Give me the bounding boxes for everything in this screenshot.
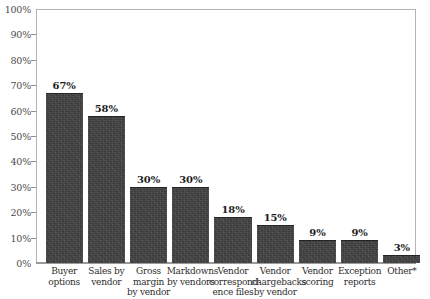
x-axis-tick-label: Vendorscoring	[293, 266, 341, 287]
bar-slot: 58%	[88, 9, 125, 263]
bar[interactable]	[46, 93, 83, 263]
x-axis-tick-label: Vendorchargebacksby vendor	[251, 266, 299, 298]
bar[interactable]	[383, 255, 420, 263]
x-axis-tick-label-line: by vendor	[251, 287, 299, 298]
bar-value-label: 9%	[352, 227, 368, 238]
y-tick-label: 50%	[10, 131, 31, 142]
y-tick-label: 100%	[5, 4, 31, 15]
bar-value-label: 58%	[95, 103, 118, 114]
bar-slot: 15%	[257, 9, 294, 263]
y-tick-label: 90%	[10, 29, 31, 40]
bar[interactable]	[88, 116, 125, 263]
bar-slot: 9%	[341, 9, 378, 263]
y-tick-label: 20%	[10, 207, 31, 218]
bar-slot: 9%	[299, 9, 336, 263]
bars-layer: 67%58%30%30%18%15%9%9%3%	[36, 9, 416, 263]
x-axis-tick-label-line: chargebacks	[251, 277, 299, 288]
y-tick-label: 30%	[10, 181, 31, 192]
bar[interactable]	[214, 217, 251, 263]
bar-slot: 30%	[172, 9, 209, 263]
x-axis-tick-label-line: correspond-	[209, 277, 257, 288]
x-axis-tick-label-line: Exception	[336, 266, 384, 277]
x-axis-tick-label: Markdownsby vendors	[167, 266, 215, 287]
bar-chart: 0%10%20%30%40%50%60%70%80%90%100% 67%58%…	[0, 0, 430, 299]
x-axis-tick-label: Buyeroptions	[40, 266, 88, 287]
x-axis-tick-label-line: ence files	[209, 287, 257, 298]
y-axis: 0%10%20%30%40%50%60%70%80%90%100%	[0, 0, 36, 299]
bar-slot: 18%	[214, 9, 251, 263]
x-axis-tick-label-line: margin	[124, 277, 172, 288]
bar-value-label: 18%	[221, 204, 244, 215]
y-tick-label: 0%	[16, 258, 31, 269]
x-axis-tick-label: Vendorcorrespond-ence files	[209, 266, 257, 298]
x-axis-tick-label: Other*	[378, 266, 426, 277]
x-axis-tick-label-line: by vendors	[167, 277, 215, 288]
bar[interactable]	[341, 240, 378, 263]
x-axis-tick-label: Exceptionreports	[336, 266, 384, 287]
bar-value-label: 67%	[53, 80, 76, 91]
bar[interactable]	[299, 240, 336, 263]
x-axis-tick-label-line: reports	[336, 277, 384, 288]
bar[interactable]	[172, 187, 209, 263]
y-tick-label: 70%	[10, 80, 31, 91]
x-axis-labels: BuyeroptionsSales byvendorGrossmarginby …	[36, 266, 416, 299]
x-axis-tick-label-line: Vendor	[251, 266, 299, 277]
x-axis-tick-label-line: options	[40, 277, 88, 288]
y-tick-label: 10%	[10, 232, 31, 243]
x-axis-tick-label-line: Other*	[378, 266, 426, 277]
y-tick-label: 60%	[10, 105, 31, 116]
bar[interactable]	[257, 225, 294, 263]
bar[interactable]	[130, 187, 167, 263]
bar-slot: 3%	[383, 9, 420, 263]
x-axis-tick-label: Sales byvendor	[82, 266, 130, 287]
bar-value-label: 30%	[179, 174, 202, 185]
x-axis-tick-label-line: Gross	[124, 266, 172, 277]
x-axis-tick-label-line: Vendor	[209, 266, 257, 277]
x-axis-tick-label-line: vendor	[82, 277, 130, 288]
x-axis-tick-label-line: Buyer	[40, 266, 88, 277]
bar-value-label: 9%	[309, 227, 325, 238]
x-axis-tick-label-line: Markdowns	[167, 266, 215, 277]
x-axis-tick-label: Grossmarginby vendor	[124, 266, 172, 298]
bar-value-label: 3%	[394, 242, 410, 253]
bar-value-label: 15%	[264, 212, 287, 223]
bar-slot: 30%	[130, 9, 167, 263]
bar-slot: 67%	[46, 9, 83, 263]
bar-value-label: 30%	[137, 174, 160, 185]
x-axis-tick-label-line: Sales by	[82, 266, 130, 277]
x-axis-tick-label-line: Vendor	[293, 266, 341, 277]
y-tick-label: 40%	[10, 156, 31, 167]
y-tick-label: 80%	[10, 54, 31, 65]
x-axis-tick-label-line: by vendor	[124, 287, 172, 298]
x-axis-tick-label-line: scoring	[293, 277, 341, 288]
